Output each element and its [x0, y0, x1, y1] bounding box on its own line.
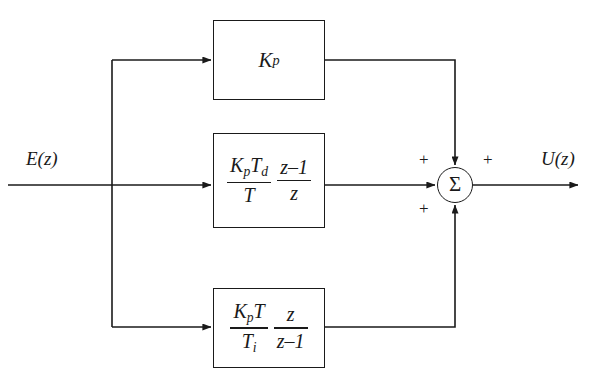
input-signal-label: E(z)	[26, 148, 58, 170]
integral-term-expression: KpT Ti z z–1	[227, 301, 310, 356]
integral-fraction-numerator: KpT	[230, 301, 267, 326]
summing-sign-top-left: +	[419, 151, 429, 168]
sigma-icon: Σ	[449, 174, 461, 195]
integral-z-numerator: z	[284, 304, 298, 325]
integral-fraction-denominator: Ti	[239, 331, 260, 356]
derivative-fraction-denominator: T	[241, 185, 258, 206]
wire-integral-to-summer	[325, 205, 455, 327]
fraction-bar	[274, 327, 308, 328]
summing-sign-bottom-left: +	[419, 200, 429, 217]
derivative-term-block: KpTd T z–1 z	[213, 133, 325, 228]
proportional-gain-expression: Kp	[258, 49, 279, 71]
derivative-z-fraction: z–1 z	[277, 157, 311, 204]
output-signal-label: U(z)	[541, 148, 575, 170]
summing-junction: Σ	[437, 167, 473, 203]
fraction-bar	[277, 180, 311, 181]
fraction-bar	[227, 182, 271, 183]
summing-sign-top-right: +	[483, 151, 493, 168]
integral-term-block: KpT Ti z z–1	[213, 288, 325, 368]
integral-z-denominator: z–1	[274, 331, 308, 352]
integral-gain-fraction: KpT Ti	[230, 301, 267, 356]
fraction-bar	[230, 327, 267, 328]
integral-z-fraction: z z–1	[274, 304, 308, 351]
derivative-z-denominator: z	[287, 183, 301, 204]
wire-proportional-to-summer	[325, 60, 455, 165]
derivative-term-expression: KpTd T z–1 z	[224, 155, 314, 206]
proportional-gain-block: Kp	[213, 20, 325, 100]
pid-block-diagram: Kp KpTd T z–1 z KpT Ti z	[0, 0, 610, 388]
derivative-gain-fraction: KpTd T	[227, 155, 271, 206]
derivative-z-numerator: z–1	[277, 157, 311, 178]
derivative-fraction-numerator: KpTd	[227, 155, 271, 180]
